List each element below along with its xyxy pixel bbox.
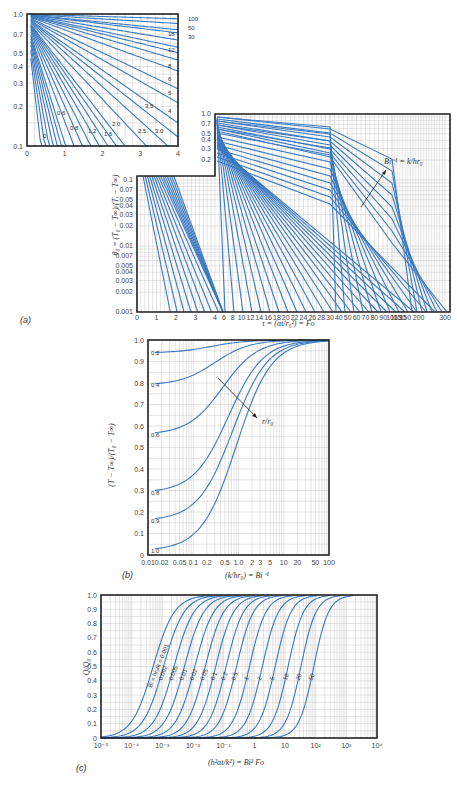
y-tick: 0.3 [13, 80, 23, 87]
curve-label: 6 [168, 76, 172, 82]
x-tick: 50 [344, 314, 352, 321]
curve-label: 0.01 [178, 667, 188, 681]
x-tick: 200 [413, 314, 425, 321]
curve [152, 176, 198, 312]
curve [31, 32, 74, 146]
chart-a-inset: 1.00.70.50.40.30.20.10123410050301812865… [13, 11, 198, 158]
y-tick: 0.6 [87, 649, 97, 656]
x-tick: 10 [281, 742, 289, 749]
chart-c: Bi = hr₀/k = 0.0010.0020.0050.010.020.05… [76, 592, 382, 774]
y-tick: 0.1 [123, 176, 133, 183]
y-tick: 0.4 [87, 677, 97, 684]
curve-label: 0.8 [70, 125, 79, 131]
curve-label: 0.5 [230, 671, 239, 682]
x-tick: 80 [370, 314, 378, 321]
x-tick: 0.05 [173, 559, 187, 566]
curve-label: 1.0 [151, 548, 160, 554]
y-tick: 0.7 [134, 401, 144, 408]
curve-label: 18 [168, 31, 175, 37]
curve [155, 340, 329, 384]
curve [174, 176, 223, 312]
y-tick: 0.002 [115, 288, 133, 295]
x-tick: 150 [399, 314, 411, 321]
curve-label: 12 [168, 47, 175, 53]
x-tick: 0.2 [202, 559, 212, 566]
y-tick: 0.2 [134, 509, 144, 516]
panel-c-label: (c) [76, 763, 87, 773]
y-tick: 1.0 [87, 592, 97, 599]
x-tick: 40 [335, 314, 343, 321]
curve-label: 30 [188, 34, 195, 40]
x-tick: 10⁻¹ [217, 742, 232, 749]
x-tick: 2 [250, 559, 254, 566]
y-tick: 0.3 [201, 145, 211, 152]
x-tick: 0.02 [155, 559, 169, 566]
panel-b-label: (b) [122, 570, 133, 580]
curve-label: 1.6 [104, 131, 113, 137]
curve-label: 3.0 [155, 128, 164, 134]
x-tick: 30 [326, 314, 334, 321]
y-tick: 0.001 [115, 308, 133, 315]
y-tick: 0.7 [87, 634, 97, 641]
x-tick: 10⁴ [372, 742, 383, 749]
y-axis-label: Q/Q₀ [82, 659, 91, 676]
curve-label: 0.6 [151, 432, 160, 438]
y-tick: 0.02 [119, 222, 133, 229]
curve [31, 17, 178, 71]
x-axis-label: τ = (αt/r₀²) = Fo [262, 319, 315, 328]
y-tick: 0.6 [134, 423, 144, 430]
x-tick: 3 [194, 314, 198, 321]
curve-label: 0.8 [151, 490, 160, 496]
arrow [218, 378, 257, 418]
x-tick: 1.0 [234, 559, 244, 566]
curve-label: 0.6 [57, 110, 66, 116]
y-tick: 0.07 [119, 186, 133, 193]
curve-label: 100 [188, 16, 199, 22]
curve-label: 5 [168, 90, 172, 96]
x-tick: 0.5 [220, 559, 230, 566]
y-tick: 0.4 [13, 63, 23, 70]
x-tick: 20 [293, 559, 301, 566]
x-tick: 300 [439, 314, 451, 321]
x-tick: 3 [258, 559, 262, 566]
y-tick: 0.4 [201, 136, 211, 143]
x-tick: 6 [222, 314, 226, 321]
curve [158, 176, 218, 312]
x-tick: 10⁻⁴ [124, 742, 139, 749]
x-tick: 50 [311, 559, 319, 566]
x-tick: 60 [353, 314, 361, 321]
chart-b: 0.20.40.60.80.91.000.10.20.30.40.50.60.7… [107, 337, 335, 581]
x-tick: 1 [252, 742, 256, 749]
curve-label: 0.9 [151, 518, 160, 524]
x-tick: 0 [135, 314, 139, 321]
curve-label: 50 [188, 25, 195, 31]
x-tick: 10 [238, 314, 246, 321]
x-tick: 100 [323, 559, 335, 566]
y-tick: 0.1 [13, 143, 23, 150]
curve [155, 340, 329, 433]
x-tick: 2 [101, 150, 105, 157]
curve-label: 3.5 [145, 103, 154, 109]
x-tick: 5 [268, 559, 272, 566]
x-tick: 3 [138, 150, 142, 157]
y-tick: 0.4 [134, 466, 144, 473]
panel-a-label: (a) [20, 315, 31, 325]
y-tick: 0.2 [13, 103, 23, 110]
y-tick: 0 [140, 552, 144, 559]
y-tick: 0.2 [87, 706, 97, 713]
y-tick: 0.3 [134, 487, 144, 494]
x-tick: 8 [231, 314, 235, 321]
x-tick: 10² [311, 742, 322, 749]
curve-label: 2.0 [112, 121, 121, 127]
x-tick: 0 [25, 150, 29, 157]
y-tick: 0 [93, 735, 97, 742]
x-tick: 4 [176, 150, 180, 157]
curve [31, 28, 91, 146]
y-tick: 0.03 [119, 211, 133, 218]
y-tick: 0.5 [134, 444, 144, 451]
y-tick: 0.2 [201, 156, 211, 163]
chart-a-main: 1.00.70.50.40.30.20.10.070.050.040.030.0… [20, 110, 451, 328]
y-tick: 0.8 [134, 380, 144, 387]
heisler-chart-figure: 1.00.70.50.40.30.20.10123410050301812865… [0, 0, 457, 785]
y-tick: 1.0 [134, 337, 144, 344]
